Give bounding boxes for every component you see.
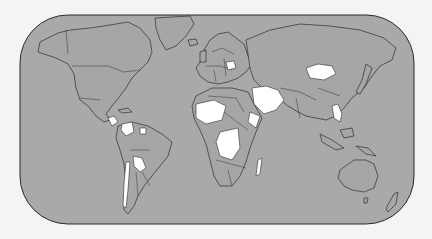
world-map-svg — [0, 0, 432, 239]
landmass-tasmania — [364, 198, 368, 203]
region-guyana — [140, 128, 146, 134]
world-map — [0, 0, 432, 239]
region-west-africa — [196, 100, 226, 124]
landmass-uk — [200, 50, 206, 62]
region-poland — [226, 61, 236, 70]
